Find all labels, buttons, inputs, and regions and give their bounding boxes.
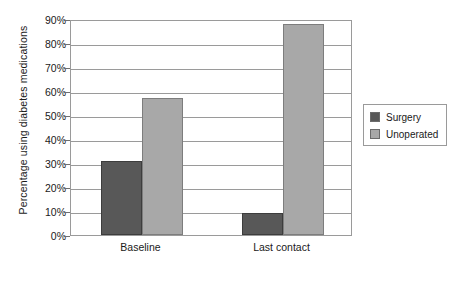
y-axis-tick-labels: 0%10%20%30%40%50%60%70%80%90% [26, 0, 66, 285]
plot-area [70, 20, 352, 236]
legend-item-surgery: Surgery [370, 109, 446, 125]
y-axis-tick-label: 40% [28, 135, 66, 145]
legend-label: Unoperated [386, 129, 438, 140]
y-axis-tick-label: 80% [28, 39, 66, 49]
y-axis-tick-label: 60% [28, 87, 66, 97]
x-axis-tick-label-baseline: Baseline [81, 240, 201, 254]
y-axis-tick-label: 30% [28, 159, 66, 169]
bar-baseline-surgery [101, 161, 142, 235]
y-axis-tickmark [64, 164, 70, 165]
y-axis-tick-label: 20% [28, 183, 66, 193]
legend-label: Surgery [386, 112, 421, 123]
y-axis-tickmark [64, 44, 70, 45]
y-axis-tick-label: 70% [28, 63, 66, 73]
y-axis-tick-label: 90% [28, 15, 66, 25]
bar-last-contact-surgery [242, 213, 283, 235]
y-axis-tick-label: 50% [28, 111, 66, 121]
y-axis-tick-label: 10% [28, 207, 66, 217]
y-axis-tickmark [64, 116, 70, 117]
y-axis-tickmark [64, 140, 70, 141]
bar-last-contact-unoperated [283, 24, 324, 235]
y-axis-tickmark [64, 236, 70, 237]
legend: SurgeryUnoperated [363, 104, 447, 146]
y-axis-tickmark [64, 212, 70, 213]
y-axis-tickmark [64, 188, 70, 189]
x-axis-tick-label-last-contact: Last contact [222, 240, 342, 254]
legend-item-unoperated: Unoperated [370, 126, 446, 142]
y-axis-tickmark [64, 20, 70, 21]
y-axis-tickmark [64, 68, 70, 69]
y-axis-tickmark [64, 92, 70, 93]
bar-chart-figure: Percentage using diabetes medications 0%… [0, 0, 466, 285]
bar-baseline-unoperated [142, 98, 183, 235]
legend-swatch-unoperated [370, 129, 380, 139]
legend-swatch-surgery [370, 112, 380, 122]
x-axis-tick-labels: BaselineLast contact [70, 240, 352, 256]
y-axis-tick-label: 0% [28, 231, 66, 241]
